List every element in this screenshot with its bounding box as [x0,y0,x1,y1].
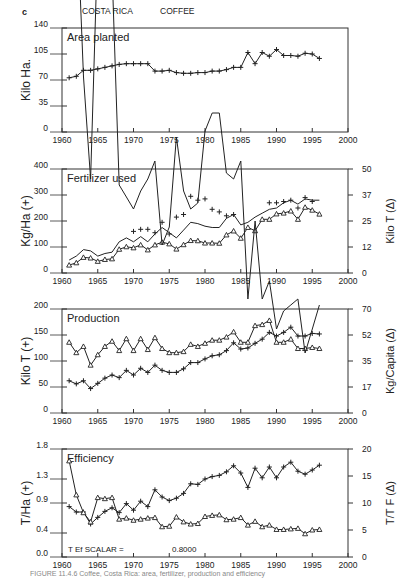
series-line [69,461,319,534]
plus-marker [224,67,229,72]
x-tick-label: 1970 [124,135,143,145]
x-tick-label: 1960 [53,276,72,286]
panel-title: Area planted [67,31,129,43]
triangle-marker [231,228,236,233]
plus-marker [167,370,172,375]
triangle-marker [174,350,179,355]
y-right-tick-label: 10 [362,498,372,508]
plus-marker [67,378,72,383]
plus-marker [203,70,208,75]
triangle-marker [245,225,250,230]
y-right-tick-label: 17 [362,382,372,392]
y-right-tick-label: 5 [362,525,367,535]
triangle-marker [310,528,315,533]
x-tick-label: 1990 [267,416,286,426]
y-tick-label: 0 [43,404,48,414]
y-right-tick-label: 20 [362,444,372,454]
triangle-marker [188,238,193,243]
x-tick-label: 2000 [339,560,358,570]
panel-title: Production [67,312,120,324]
triangle-marker [303,205,308,210]
series-kg-capita [67,318,322,367]
x-tick-label: 1960 [53,416,72,426]
panel-area-planted: 0357010514019601965197019751980198519901… [19,19,358,145]
triangle-marker [124,244,129,249]
figure-caption: FIGURE 11.4.6 Coffee, Costa Rica: area, … [30,570,265,577]
triangle-marker [195,344,200,349]
triangle-marker [67,263,72,268]
y-tick-label: 200 [34,300,48,310]
triangle-marker [281,211,286,216]
triangle-marker [281,527,286,532]
plus-marker [303,472,308,477]
plus-marker [210,207,215,212]
plus-marker [245,50,250,55]
triangle-marker [88,256,93,260]
y-tick-label: 140 [34,19,48,29]
crop-label: COFFEE [160,6,195,16]
plus-marker [174,215,179,220]
triangle-marker [110,495,115,500]
x-tick-label: 1975 [160,416,179,426]
triangle-marker [231,329,236,334]
series-kg-ha-smoothed [69,199,319,260]
series-line [69,50,319,78]
plus-marker [167,498,172,503]
series-t-ha [67,460,322,527]
plus-marker [181,71,186,76]
plus-marker [217,352,222,357]
y-right-tick-label: 15 [362,471,372,481]
y-axis-label: Kilo T (+) [19,337,33,386]
triangle-marker [95,259,100,264]
triangle-marker [310,208,315,213]
x-tick-label: 1965 [88,276,107,286]
plot-frame [62,28,348,132]
plus-marker [117,62,122,67]
triangle-marker [110,339,115,344]
triangle-marker [95,495,100,500]
plus-marker [203,196,208,201]
plus-marker [245,485,250,490]
plus-marker [274,200,279,205]
y-tick-label: 105 [34,45,48,55]
plus-marker [74,381,79,386]
triangle-marker [67,340,72,345]
y-tick-label: 100 [34,352,48,362]
x-tick-label: 1985 [231,560,250,570]
plus-marker [210,353,215,358]
country-label: COSTA RICA [82,6,133,16]
plus-marker [188,71,193,76]
plus-marker [145,227,150,232]
y-tick-label: 150 [34,326,48,336]
plus-marker [310,52,315,57]
x-tick-label: 2000 [339,135,358,145]
triangle-marker [210,241,215,246]
panel-title: Fertilizer used [67,172,136,184]
y-right-tick-label: 70 [362,304,372,314]
y-right-tick-label: 0 [362,552,367,562]
scalar-label: T Ef SCALAR = [68,545,124,554]
plus-marker [210,474,215,479]
y-tick-label: 200 [34,212,48,222]
triangle-marker [310,345,315,350]
series-kilo-t [67,205,322,267]
triangle-marker [217,512,222,517]
y-right-tick-label: 50 [362,164,372,174]
panel-fertilizer-used: 0100200300400012253750196019651970197519… [19,160,396,286]
y-tick-label: 1.8 [36,440,48,450]
triangle-marker [117,517,122,522]
plus-marker [274,475,279,480]
triangle-marker [117,247,122,252]
triangle-marker [74,492,79,497]
triangle-marker [81,344,86,349]
y-right-tick-label: 0 [362,268,367,278]
x-tick-label: 1975 [160,560,179,570]
y-tick-label: 0.4 [36,524,48,534]
triangle-marker [274,340,279,345]
y-axis-label: Kilo Ha. [19,59,33,101]
x-tick-label: 1990 [267,560,286,570]
series-area-planted [67,47,322,80]
plus-marker [88,68,93,73]
plus-marker [138,61,143,66]
scalar-value: 0.8000 [172,545,197,554]
